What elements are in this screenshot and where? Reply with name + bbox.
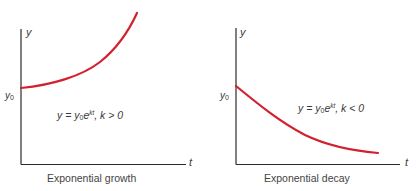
decay-equation: y = y0ekt, k < 0 bbox=[298, 103, 364, 114]
decay-y-axis-label: y bbox=[240, 27, 246, 38]
growth-x-axis-label: t bbox=[189, 157, 192, 168]
growth-caption: Exponential growth bbox=[47, 173, 136, 184]
growth-y0-label: y0 bbox=[5, 91, 14, 101]
eq-lhs: y = y bbox=[298, 102, 320, 114]
eq-lhs: y = y bbox=[57, 109, 79, 121]
growth-y-axis-label: y bbox=[26, 27, 32, 38]
y0-subscript: 0 bbox=[225, 94, 229, 101]
graphs-canvas bbox=[0, 0, 416, 191]
eq-condition: , k > 0 bbox=[94, 109, 123, 121]
growth-graph bbox=[21, 13, 186, 165]
eq-condition: , k < 0 bbox=[335, 102, 364, 114]
growth-equation: y = y0ekt, k > 0 bbox=[57, 110, 123, 121]
decay-curve bbox=[236, 86, 378, 153]
decay-x-axis-label: t bbox=[405, 157, 408, 168]
decay-y0-label: y0 bbox=[220, 91, 229, 101]
y0-subscript: 0 bbox=[10, 94, 14, 101]
growth-curve bbox=[21, 13, 137, 88]
decay-caption: Exponential decay bbox=[264, 173, 350, 184]
decay-graph bbox=[236, 28, 400, 165]
